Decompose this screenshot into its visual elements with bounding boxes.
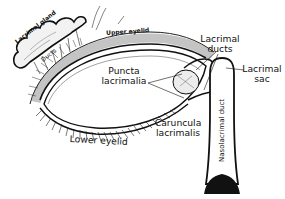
label-caruncula-lacrimalis: Caruncula lacrimalis [148,118,208,137]
caruncula-region [173,70,199,94]
label-lacrimal-ducts: Lacrimal ducts [190,34,250,53]
label-lacrimal-sac: Lacrimal sac [240,64,284,83]
label-lacrimal-ducts-line2: ducts [190,44,250,54]
label-caruncula-line2: lacrimalis [148,128,208,138]
upper-lid-strands [92,6,124,30]
label-puncta-line2: lacrimalia [94,76,154,86]
label-lacrimal-sac-line2: sac [240,74,284,84]
label-puncta-lacrimalia: Puncta lacrimalia [94,66,154,85]
label-nasolacrimal-duct: Nasolacrimal duct [219,99,226,162]
